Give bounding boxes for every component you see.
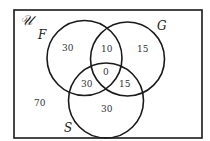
region-f-only: 30 — [62, 43, 74, 53]
set-g-label: G — [157, 19, 167, 33]
region-g-and-s: 15 — [119, 79, 131, 89]
region-f-g-s: 0 — [103, 67, 109, 77]
venn-diagram: 𝒰 F G S 30 10 15 0 30 15 70 30 — [0, 0, 210, 141]
region-outside: 70 — [34, 98, 46, 108]
region-g-only: 15 — [137, 44, 149, 54]
region-f-and-s: 30 — [81, 79, 93, 89]
universe-label: 𝒰 — [20, 12, 37, 28]
region-s-only: 30 — [101, 104, 113, 114]
region-f-and-g: 10 — [101, 44, 113, 54]
set-s-label: S — [64, 121, 72, 135]
set-f-label: F — [37, 28, 47, 42]
